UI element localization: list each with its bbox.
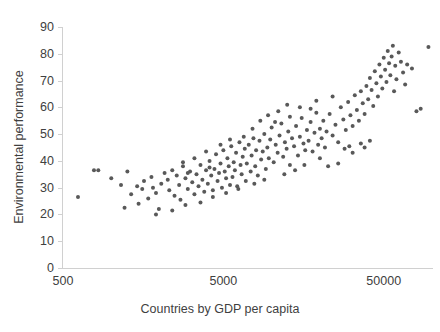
scatter-point — [303, 148, 307, 152]
scatter-point — [318, 156, 322, 160]
scatter-point — [242, 135, 246, 139]
scatter-point — [285, 103, 289, 107]
scatter-points-layer — [63, 27, 432, 268]
scatter-point — [270, 125, 274, 129]
scatter-point — [370, 88, 374, 92]
scatter-point — [374, 81, 378, 85]
scatter-point — [151, 186, 155, 190]
scatter-point — [166, 178, 170, 182]
scatter-point — [254, 148, 258, 152]
scatter-point — [229, 144, 233, 148]
scatter-point — [300, 116, 304, 120]
scatter-point — [206, 182, 210, 186]
scatter-point — [311, 150, 315, 154]
scatter-point — [197, 184, 201, 188]
scatter-point — [76, 195, 80, 199]
scatter-point — [181, 164, 185, 168]
scatter-point — [323, 146, 327, 150]
scatter-point — [390, 54, 394, 58]
scatter-point — [316, 143, 320, 147]
scatter-point — [214, 152, 218, 156]
scatter-point — [383, 68, 387, 72]
scatter-point — [410, 67, 414, 71]
scatter-point — [192, 192, 196, 196]
scatter-point — [283, 140, 287, 144]
scatter-point — [209, 174, 213, 178]
scatter-point — [386, 49, 390, 53]
scatter-point — [307, 139, 311, 143]
scatter-point — [333, 123, 337, 127]
scatter-point — [321, 119, 325, 123]
scatter-point — [224, 191, 228, 195]
scatter-point — [140, 187, 144, 191]
scatter-point — [314, 99, 318, 103]
scatter-point — [211, 195, 215, 199]
scatter-point — [351, 151, 355, 155]
scatter-point — [394, 77, 398, 81]
scatter-point — [257, 139, 261, 143]
scatter-point — [208, 166, 212, 170]
y-tick-mark — [58, 241, 62, 242]
scatter-point — [119, 183, 123, 187]
y-tick-label: 60 — [0, 101, 54, 114]
scatter-point — [125, 170, 129, 174]
scatter-point — [382, 56, 386, 60]
x-tick-label: 500 — [53, 275, 74, 288]
scatter-point — [273, 120, 277, 124]
scatter-point — [278, 133, 282, 137]
scatter-point — [149, 175, 153, 179]
scatter-point — [252, 182, 256, 186]
scatter-point — [294, 124, 298, 128]
scatter-point — [392, 89, 396, 93]
scatter-point — [186, 171, 190, 175]
y-tick-label: 0 — [0, 262, 54, 275]
y-tick-label: 30 — [0, 181, 54, 194]
scatter-point — [216, 179, 220, 183]
scatter-point — [266, 113, 270, 117]
scatter-point — [347, 144, 351, 148]
scatter-point — [403, 83, 407, 87]
y-tick-label: 50 — [0, 128, 54, 141]
scatter-point — [341, 117, 345, 121]
scatter-point — [198, 200, 202, 204]
scatter-point — [245, 162, 249, 166]
scatter-point — [346, 100, 350, 104]
scatter-point — [267, 156, 271, 160]
scatter-point — [183, 176, 187, 180]
scatter-point — [343, 147, 347, 151]
scatter-point — [376, 95, 380, 99]
scatter-point — [170, 208, 174, 212]
scatter-point — [373, 69, 377, 73]
y-tick-label: 10 — [0, 235, 54, 248]
scatter-point — [217, 171, 221, 175]
scatter-point — [211, 188, 215, 192]
x-axis-title: Countries by GDP per capita — [0, 302, 440, 316]
scatter-point — [339, 105, 343, 109]
scatter-point — [363, 146, 367, 150]
scatter-point — [274, 143, 278, 147]
scatter-point — [190, 180, 194, 184]
y-axis-title: Environmental performance — [12, 32, 26, 262]
scatter-point — [344, 128, 348, 132]
scatter-point — [279, 121, 283, 125]
scatter-point — [388, 73, 392, 77]
scatter-point — [234, 151, 238, 155]
scatter-point — [391, 44, 395, 48]
x-axis-line — [62, 268, 433, 269]
scatter-point — [318, 127, 322, 131]
scatter-point — [135, 184, 139, 188]
x-tick-label: 5000 — [209, 275, 237, 288]
scatter-point — [288, 163, 292, 167]
scatter-point — [240, 172, 244, 176]
scatter-point — [268, 137, 272, 141]
scatter-point — [320, 136, 324, 140]
scatter-point — [129, 192, 133, 196]
scatter-point — [261, 150, 265, 154]
scatter-point — [224, 176, 228, 180]
scatter-point — [305, 128, 309, 132]
x-axis-tick-labels: 500500050000 — [0, 275, 440, 293]
scatter-point — [312, 131, 316, 135]
scatter-point — [167, 188, 171, 192]
scatter-point — [96, 168, 100, 172]
scatter-point — [142, 179, 146, 183]
